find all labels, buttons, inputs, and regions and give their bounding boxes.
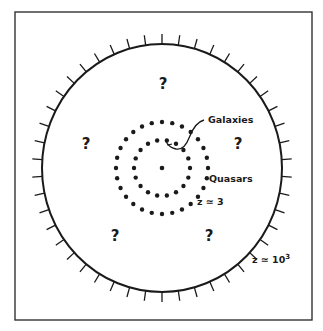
ring-dot [150, 211, 154, 215]
galaxies-arrowhead-icon [166, 141, 172, 145]
ring-dot [206, 166, 210, 170]
ring-dot [180, 124, 184, 128]
ring-dot [118, 186, 122, 190]
ring-dot [165, 193, 169, 197]
ring-dot [132, 166, 136, 170]
ring-dot [201, 146, 205, 150]
horizon-tick [250, 77, 257, 84]
horizon-tick [40, 210, 49, 213]
ring-dot [124, 137, 128, 141]
horizon-tick [80, 264, 86, 272]
horizon-tick [56, 240, 64, 246]
horizon-tick [127, 39, 130, 49]
ring-dot [118, 146, 122, 150]
horizon-tick [260, 91, 268, 97]
horizon-tick [178, 35, 179, 45]
diagram-canvas: Galaxies Quasars z ≃ 3 z ≃ 103 ????? [0, 0, 323, 331]
ring-dot [188, 202, 192, 206]
horizon-tick [279, 193, 289, 195]
figure-frame [15, 12, 312, 320]
z-quasars-label: z ≃ 3 [197, 196, 224, 207]
horizon-tick [40, 123, 49, 126]
ring-dot [150, 121, 154, 125]
horizon-tick [269, 225, 278, 230]
horizon-tick [110, 282, 114, 291]
horizon-tick [127, 287, 130, 297]
unknown-region-question-mark: ? [159, 75, 168, 93]
horizon-tick [56, 91, 64, 97]
horizon-tick [238, 64, 244, 72]
horizon-tick [269, 106, 278, 111]
ring-dot [174, 190, 178, 194]
unknown-region-question-mark: ? [111, 227, 120, 245]
horizon-tick [94, 54, 99, 63]
observer-center-dot [160, 166, 165, 171]
horizon-tick [47, 106, 56, 111]
ring-dot [140, 207, 144, 211]
ring-dot [138, 148, 142, 152]
unknown-region-question-mark: ? [82, 135, 91, 153]
horizon-tick [238, 264, 244, 272]
ring-dot [170, 211, 174, 215]
ring-dot [170, 121, 174, 125]
ring-dot [115, 156, 119, 160]
ring-dot [160, 120, 164, 124]
horizon-tick [224, 274, 229, 283]
ring-dot [140, 124, 144, 128]
ring-dot [205, 156, 209, 160]
ring-dot [124, 194, 128, 198]
horizon-tick [279, 141, 289, 143]
ring-dot [146, 190, 150, 194]
horizon-tick [275, 123, 284, 126]
horizon-tick [67, 77, 74, 84]
ring-dot [114, 166, 118, 170]
ring-dot [186, 175, 190, 179]
horizon-tick [144, 291, 145, 301]
horizon-tick [110, 45, 114, 54]
horizon-tick [194, 287, 197, 297]
ring-dot [201, 186, 205, 190]
unknown-regions: ????? [82, 75, 243, 245]
horizon-tick [275, 210, 284, 213]
ring-dot [181, 184, 185, 188]
ring-dot [131, 202, 135, 206]
ring-dot [133, 175, 137, 179]
ring-dot [115, 176, 119, 180]
universe-diagram: Galaxies Quasars z ≃ 3 z ≃ 103 ????? [0, 0, 323, 331]
horizon-tick [210, 282, 214, 291]
horizon-tick [35, 193, 45, 195]
horizon-tick [67, 253, 74, 260]
ring-dot [138, 184, 142, 188]
ring-dot [131, 130, 135, 134]
horizon-tick [260, 240, 268, 246]
horizon-tick [282, 159, 292, 160]
unknown-region-question-mark: ? [234, 135, 243, 153]
horizon-tick [94, 274, 99, 283]
z-horizon-exponent: 3 [285, 253, 290, 261]
ring-dot [196, 137, 200, 141]
horizon-tick [32, 176, 42, 177]
unknown-region-question-mark: ? [205, 227, 214, 245]
horizon-tick [35, 141, 45, 143]
quasars-label: Quasars [209, 173, 253, 184]
horizon-tick [194, 39, 197, 49]
ring-dot [160, 212, 164, 216]
ring-dot [155, 138, 159, 142]
z-horizon-base: z ≃ 10 [252, 254, 286, 265]
horizon-tick [178, 291, 179, 301]
horizon-tick [282, 176, 292, 177]
ring-dot [146, 142, 150, 146]
horizon-tick [144, 35, 145, 45]
ring-dot [174, 142, 178, 146]
ring-dot [188, 166, 192, 170]
ring-dot [133, 156, 137, 160]
horizon-tick [224, 54, 229, 63]
horizon-tick [80, 64, 86, 72]
ring-dot [186, 156, 190, 160]
ring-dot [180, 207, 184, 211]
horizon-tick [47, 225, 56, 230]
horizon-tick [210, 45, 214, 54]
z-horizon-label: z ≃ 103 [252, 253, 290, 265]
ring-dot [155, 193, 159, 197]
galaxies-label: Galaxies [208, 114, 254, 125]
